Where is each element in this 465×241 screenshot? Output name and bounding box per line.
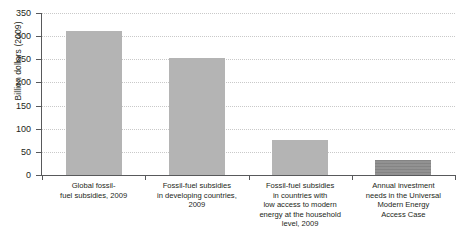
x-axis-category-label: Annual investmentneeds in the UniversalM… xyxy=(352,181,455,219)
bar xyxy=(169,58,225,175)
category-label-line: energy at the household xyxy=(249,210,352,220)
plot-area xyxy=(42,13,455,175)
x-axis-tick-mark xyxy=(42,175,43,180)
bar-chart: Billion dollars (2009) 05010015020025030… xyxy=(0,0,465,241)
x-axis-category-labels: Global fossil-fuel subsidies, 2009Fossil… xyxy=(42,181,456,239)
gridline xyxy=(42,13,455,14)
category-label-line: needs in the Universal xyxy=(352,191,455,201)
x-axis-category-label: Fossil-fuel subsidiesin countries withlo… xyxy=(249,181,352,229)
category-label-line: fuel subsidies, 2009 xyxy=(42,191,145,201)
category-label-line: in countries with xyxy=(249,191,352,201)
x-axis-tick-mark xyxy=(455,175,456,180)
category-label-line: Modern Energy xyxy=(352,200,455,210)
category-label-line: Global fossil- xyxy=(42,181,145,191)
category-label-line: level, 2009 xyxy=(249,219,352,229)
category-label-line: Annual investment xyxy=(352,181,455,191)
bar xyxy=(66,31,122,175)
category-label-line: 2009 xyxy=(145,200,248,210)
category-label-line: Fossil-fuel subsidies xyxy=(249,181,352,191)
x-axis-tick-mark xyxy=(145,175,146,180)
bar xyxy=(375,160,431,175)
y-axis-tick-marks xyxy=(0,13,42,175)
bar xyxy=(272,140,328,175)
x-axis-category-label: Fossil-fuel subsidiesin developing count… xyxy=(145,181,248,210)
x-axis-tick-mark xyxy=(352,175,353,180)
x-axis-category-label: Global fossil-fuel subsidies, 2009 xyxy=(42,181,145,200)
category-label-line: low access to modern xyxy=(249,200,352,210)
category-label-line: Fossil-fuel subsidies xyxy=(145,181,248,191)
category-label-line: in developing countries, xyxy=(145,191,248,201)
category-label-line: Access Case xyxy=(352,210,455,220)
x-axis-tick-mark xyxy=(249,175,250,180)
